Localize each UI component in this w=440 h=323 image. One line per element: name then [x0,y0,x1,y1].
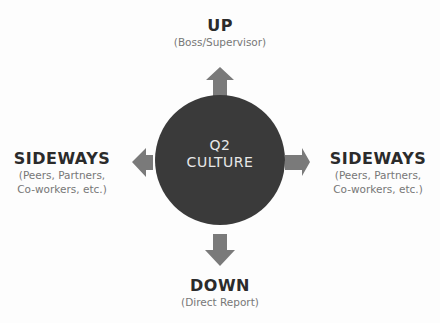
left-label: SIDEWAYS (Peers, Partners, Co-workers, e… [0,149,124,196]
left-title: SIDEWAYS [0,149,124,168]
right-subtitle-1: (Peers, Partners, [316,168,440,182]
down-label: DOWN (Direct Report) [140,276,300,309]
up-subtitle: (Boss/Supervisor) [140,35,300,49]
down-title: DOWN [140,276,300,295]
arrow-left-icon [132,148,153,177]
right-title: SIDEWAYS [316,149,440,168]
center-line-1: Q2 [155,137,285,154]
down-subtitle: (Direct Report) [140,295,300,309]
left-subtitle-2: Co-workers, etc.) [0,182,124,196]
up-label: UP (Boss/Supervisor) [140,16,300,49]
right-subtitle-2: Co-workers, etc.) [316,182,440,196]
center-line-2: CULTURE [155,154,285,171]
left-subtitle-1: (Peers, Partners, [0,168,124,182]
center-label: Q2 CULTURE [155,137,285,171]
up-title: UP [140,16,300,35]
arrow-down-icon [205,234,235,266]
right-label: SIDEWAYS (Peers, Partners, Co-workers, e… [316,149,440,196]
arrow-right-icon [285,148,310,176]
